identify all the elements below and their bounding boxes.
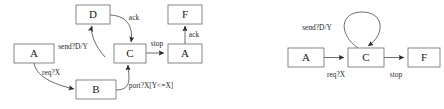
node-label: A (30, 47, 38, 59)
edge-label-stop: stop (151, 39, 164, 48)
node-b[interactable]: B (76, 80, 116, 99)
node-label: F (182, 8, 188, 20)
edge-label-stop-right: stop (390, 70, 403, 79)
edge-label-req-right: req?X (327, 70, 346, 79)
edge-label-req: req?X (42, 68, 61, 77)
edge-b-to-c (116, 65, 129, 90)
node-c-right[interactable]: C (348, 48, 384, 67)
figure-root: A B D C A F req?X (0, 0, 444, 109)
node-a-left[interactable]: A (14, 44, 54, 63)
edge-c-self-loop (344, 12, 380, 48)
left-diagram: A B D C A F req?X (14, 5, 202, 99)
right-diagram: A C F req?X stop send?D/Y (288, 12, 440, 79)
edge-label-ack-dc: ack (129, 13, 140, 22)
edge-label-send: send?D/Y (58, 42, 88, 51)
edge-label-port: port?X[Y<=X] (129, 81, 173, 90)
node-a2-left[interactable]: A (168, 44, 202, 63)
node-label: F (421, 51, 427, 63)
node-d[interactable]: D (76, 5, 110, 24)
node-f-right[interactable]: F (408, 48, 440, 67)
node-label: A (181, 47, 189, 59)
edge-c-to-d (92, 26, 105, 57)
node-label: D (89, 8, 97, 20)
node-c-left[interactable]: C (114, 44, 146, 63)
node-label: A (302, 51, 310, 63)
state-diagram-canvas: A B D C A F req?X (0, 0, 444, 109)
node-label: C (362, 51, 369, 63)
node-label: B (92, 83, 99, 95)
node-a-right[interactable]: A (288, 48, 324, 67)
node-f-left[interactable]: F (168, 5, 202, 24)
node-label: C (126, 47, 133, 59)
edge-label-send-right: send?D/Y (302, 23, 332, 32)
edge-label-ack-af: ack (189, 30, 200, 39)
left-diagram-edges (34, 15, 185, 90)
